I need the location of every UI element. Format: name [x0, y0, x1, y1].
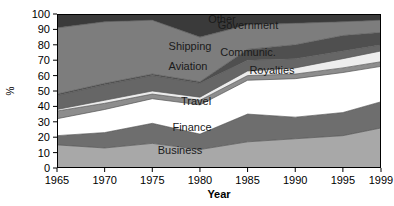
y-tick-label-30: 30: [38, 116, 50, 128]
band-label-royalties: Royalties: [249, 64, 295, 76]
band-label-aviation: Aviation: [169, 60, 208, 72]
y-tick-label-50: 50: [38, 85, 50, 97]
y-tick-label-40: 40: [38, 100, 50, 112]
y-tick-label-70: 70: [38, 54, 50, 66]
y-axis-title: %: [5, 86, 16, 95]
x-axis-title: Year: [207, 188, 231, 200]
x-tick-label-1995: 1995: [331, 174, 355, 186]
stacked-area-chart: 0102030405060708090100196519701975198019…: [0, 0, 394, 206]
x-tick-label-1990: 1990: [283, 174, 307, 186]
band-label-communic: Communic.: [220, 46, 276, 58]
y-tick-label-100: 100: [32, 8, 50, 20]
x-tick-label-1970: 1970: [92, 174, 116, 186]
x-tick-label-1965: 1965: [45, 174, 69, 186]
y-tick-label-10: 10: [38, 147, 50, 159]
y-tick-label-90: 90: [38, 23, 50, 35]
y-tick-label-0: 0: [44, 162, 50, 174]
x-tick-label-1980: 1980: [188, 174, 212, 186]
band-label-travel: Travel: [181, 95, 211, 107]
x-tick-label-1999: 1999: [369, 174, 393, 186]
y-tick-label-80: 80: [38, 39, 50, 51]
y-tick-label-60: 60: [38, 70, 50, 82]
band-label-business: Business: [158, 144, 203, 156]
chart-container: 0102030405060708090100196519701975198019…: [0, 0, 394, 206]
x-tick-label-1975: 1975: [140, 174, 164, 186]
band-label-government: Government: [218, 19, 279, 31]
y-tick-label-20: 20: [38, 131, 50, 143]
band-label-shipping: Shipping: [169, 40, 212, 52]
x-tick-label-1985: 1985: [235, 174, 259, 186]
band-label-finance: Finance: [172, 121, 211, 133]
